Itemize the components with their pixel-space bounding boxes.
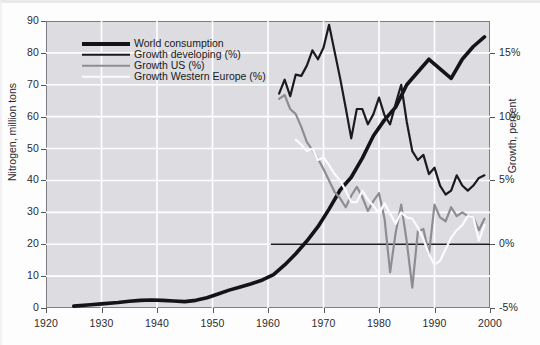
y-tickmark-left-90 bbox=[41, 21, 46, 22]
x-tickmark-1920 bbox=[46, 308, 47, 313]
y-tickmark-left-20 bbox=[41, 244, 46, 245]
x-tick-1930: 1930 bbox=[82, 317, 122, 329]
y-tick-left-20: 20 bbox=[6, 237, 39, 249]
legend-swatch-icon-2 bbox=[82, 60, 130, 71]
y-tick-left-80: 80 bbox=[6, 46, 39, 58]
y-tick-right-0: 0% bbox=[499, 237, 539, 249]
y-tickmark-left-10 bbox=[41, 276, 46, 277]
y-tickmark-right-10 bbox=[490, 117, 495, 118]
y-tickmark-right-5 bbox=[490, 180, 495, 181]
y-tick-left-0: 0 bbox=[6, 301, 39, 313]
x-tick-1960: 1960 bbox=[248, 317, 288, 329]
y-tick-left-50: 50 bbox=[6, 142, 39, 154]
x-tickmark-1970 bbox=[324, 308, 325, 313]
y-tickmark-left-80 bbox=[41, 53, 46, 54]
y-tick-left-90: 90 bbox=[6, 14, 39, 26]
x-tick-1980: 1980 bbox=[359, 317, 399, 329]
chart-figure: Nitrogen, million tons Growth, percent W… bbox=[0, 0, 540, 345]
series-line-1 bbox=[279, 25, 484, 195]
y-tickmark-left-50 bbox=[41, 149, 46, 150]
y-tick-left-70: 70 bbox=[6, 78, 39, 90]
y-tickmark-right-0 bbox=[490, 244, 495, 245]
series-line-3 bbox=[296, 140, 485, 265]
legend-label-3: Growth Western Europe (%) bbox=[134, 71, 266, 82]
y-tick-right-15: 15% bbox=[499, 46, 539, 58]
y-tick-right--5: -5% bbox=[499, 301, 539, 313]
x-tick-1990: 1990 bbox=[415, 317, 455, 329]
y-tickmark-left-60 bbox=[41, 117, 46, 118]
x-tick-1950: 1950 bbox=[193, 317, 233, 329]
y-tick-left-40: 40 bbox=[6, 173, 39, 185]
x-tick-2000: 2000 bbox=[470, 317, 510, 329]
x-tickmark-1990 bbox=[435, 308, 436, 313]
x-tickmark-1940 bbox=[157, 308, 158, 313]
y-tick-right-5: 5% bbox=[499, 173, 539, 185]
x-tickmark-2000 bbox=[490, 308, 491, 313]
plot-area: World consumptionGrowth developing (%)Gr… bbox=[46, 21, 490, 308]
legend-swatch-icon-1 bbox=[82, 49, 130, 60]
y-tickmark-right-15 bbox=[490, 53, 495, 54]
x-tickmark-1950 bbox=[213, 308, 214, 313]
y-tick-left-10: 10 bbox=[6, 269, 39, 281]
y-tickmark-left-40 bbox=[41, 180, 46, 181]
y-tickmark-left-70 bbox=[41, 85, 46, 86]
x-tickmark-1980 bbox=[379, 308, 380, 313]
y-tick-left-60: 60 bbox=[6, 110, 39, 122]
x-tick-1920: 1920 bbox=[26, 317, 66, 329]
y-tick-left-30: 30 bbox=[6, 205, 39, 217]
x-tickmark-1930 bbox=[102, 308, 103, 313]
y-tickmark-left-30 bbox=[41, 212, 46, 213]
x-tick-1970: 1970 bbox=[304, 317, 344, 329]
legend-item-3[interactable]: Growth Western Europe (%) bbox=[82, 71, 266, 82]
chart-legend: World consumptionGrowth developing (%)Gr… bbox=[82, 38, 266, 82]
y-tick-right-10: 10% bbox=[499, 110, 539, 122]
x-tickmark-1960 bbox=[268, 308, 269, 313]
legend-swatch-icon-3 bbox=[82, 71, 130, 82]
x-tick-1940: 1940 bbox=[137, 317, 177, 329]
legend-swatch-icon-0 bbox=[82, 38, 130, 49]
